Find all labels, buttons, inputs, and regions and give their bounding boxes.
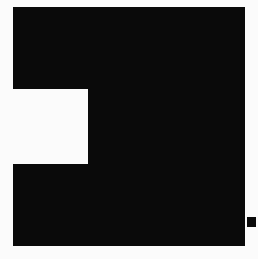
shape-group [0,0,258,259]
image-canvas [0,0,258,259]
corner-mark-shape [247,217,256,227]
